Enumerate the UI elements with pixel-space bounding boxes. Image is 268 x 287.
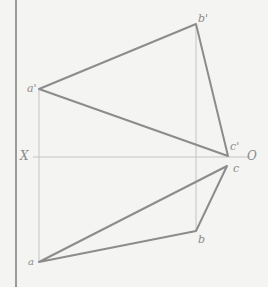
- label-c-prime: c': [230, 141, 239, 152]
- front-view-triangle: [39, 24, 228, 156]
- projection-diagram: [0, 0, 268, 287]
- top-view-triangle: [39, 166, 227, 262]
- label-a-prime: a': [27, 83, 37, 94]
- label-b: b: [198, 234, 205, 245]
- label-a: a: [28, 257, 34, 267]
- label-axis-o: O: [247, 150, 257, 162]
- label-c: c: [233, 163, 239, 174]
- label-axis-x: X: [20, 150, 29, 162]
- label-b-prime: b': [198, 13, 208, 24]
